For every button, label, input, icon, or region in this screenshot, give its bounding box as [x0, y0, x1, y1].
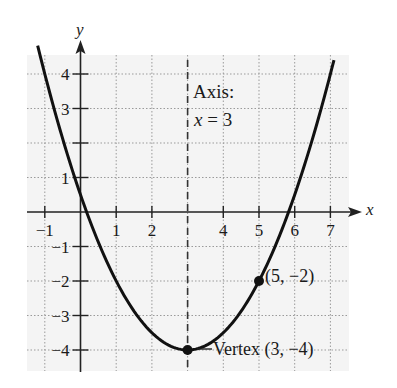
- point-label: (5, −2): [265, 266, 314, 287]
- x-tick-label: 7: [326, 221, 335, 240]
- y-tick-label: 3: [61, 100, 70, 119]
- axis-annotation-equation: x = 3: [193, 109, 232, 130]
- y-tick-label: −1: [51, 238, 69, 257]
- parabola-chart: −1124567431−1−2−3−4 y x Axis: x = 3 (5, …: [0, 0, 397, 388]
- y-tick-label: −3: [51, 307, 69, 326]
- y-tick-label: −4: [51, 341, 70, 360]
- x-tick-label: 4: [219, 221, 228, 240]
- y-tick-label: 4: [61, 65, 70, 84]
- x-tick-label: 2: [148, 221, 157, 240]
- x-tick-label: 6: [290, 221, 299, 240]
- axis-annotation-title: Axis:: [193, 81, 234, 102]
- vertex-label: Vertex (3, −4): [213, 339, 314, 360]
- y-axis-label: y: [74, 20, 84, 39]
- point-marker: [183, 345, 193, 355]
- y-tick-label: −2: [51, 272, 69, 291]
- y-tick-label: 1: [61, 169, 70, 188]
- x-tick-label: 5: [255, 221, 264, 240]
- x-tick-label: 1: [112, 221, 121, 240]
- axis-equation-rest: = 3: [202, 109, 232, 130]
- x-axis-label: x: [365, 200, 374, 219]
- point-marker: [254, 276, 264, 286]
